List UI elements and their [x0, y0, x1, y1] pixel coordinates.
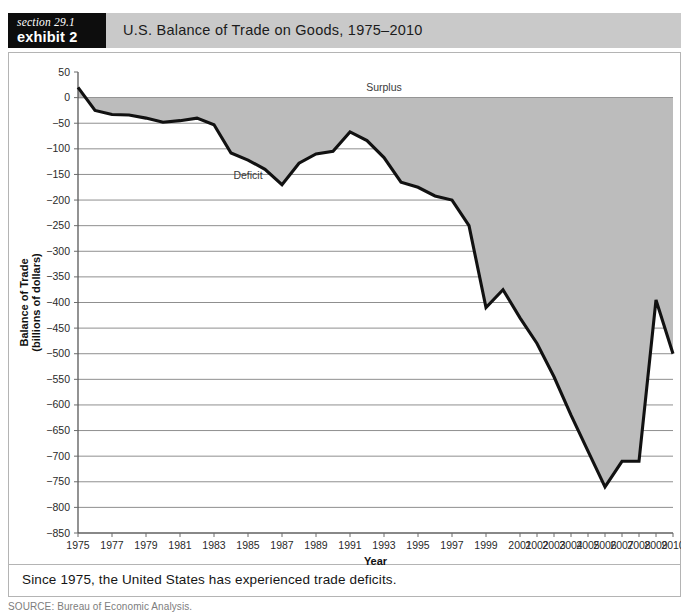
- y-tick-label: −650: [46, 424, 70, 436]
- x-tick-label: 1987: [270, 539, 294, 551]
- annotation-surplus: Surplus: [366, 81, 402, 93]
- y-tick-label: −400: [46, 296, 70, 308]
- y-axis-title-line1: Balance of Trade: [18, 258, 30, 346]
- x-tick-labels: 1975197719791981198319851987198919911993…: [66, 539, 681, 551]
- x-tick-label: 1997: [440, 539, 464, 551]
- x-tick-label: 1999: [474, 539, 498, 551]
- y-tick-label: −250: [46, 219, 70, 231]
- x-axis-title: Year: [364, 555, 388, 565]
- y-tick-label: 0: [64, 91, 70, 103]
- x-tick-label: 1983: [202, 539, 226, 551]
- y-tick-label: −100: [46, 142, 70, 154]
- y-tick-label: −50: [52, 117, 70, 129]
- y-tick-label: −350: [46, 270, 70, 282]
- y-tick-label: −300: [46, 245, 70, 257]
- y-tick-label: −750: [46, 475, 70, 487]
- source-line: SOURCE: Bureau of Economic Analysis.: [8, 601, 192, 612]
- y-tick-label: −850: [46, 527, 70, 539]
- y-tick-label: −700: [46, 450, 70, 462]
- x-tick-label: 1981: [168, 539, 192, 551]
- x-tick-label: 1985: [236, 539, 260, 551]
- y-tick-labels: 500−50−100−150−200−250−300−350−400−450−5…: [46, 66, 70, 539]
- x-tick-label: 1979: [134, 539, 158, 551]
- y-tick-label: −550: [46, 373, 70, 385]
- x-tick-label: 1993: [372, 539, 396, 551]
- y-axis-title-line2: (billions of dollars): [30, 253, 42, 352]
- annotation-deficit: Deficit: [233, 169, 262, 181]
- y-tick-label: −500: [46, 347, 70, 359]
- exhibit-title: U.S. Balance of Trade on Goods, 1975–201…: [123, 22, 423, 38]
- x-tick-label: 1991: [338, 539, 362, 551]
- x-tick-label: 2010: [661, 539, 681, 551]
- section-label: section 29.1: [17, 16, 106, 29]
- y-tick-label: −800: [46, 501, 70, 513]
- x-tick-label: 1989: [304, 539, 328, 551]
- caption-text: Since 1975, the United States has experi…: [22, 572, 397, 587]
- y-tick-label: −450: [46, 322, 70, 334]
- x-tick-label: 1995: [406, 539, 430, 551]
- balance-of-trade-chart: 500−50−100−150−200−250−300−350−400−450−5…: [8, 52, 681, 565]
- x-tick-label: 1977: [100, 539, 124, 551]
- y-tick-label: −150: [46, 168, 70, 180]
- exhibit-tag: section 29.1 exhibit 2: [8, 13, 106, 48]
- y-tick-label: −200: [46, 194, 70, 206]
- y-tick-label: −600: [46, 398, 70, 410]
- y-tick-label: 50: [58, 66, 70, 78]
- x-tick-label: 1975: [66, 539, 90, 551]
- exhibit-label: exhibit 2: [17, 29, 106, 45]
